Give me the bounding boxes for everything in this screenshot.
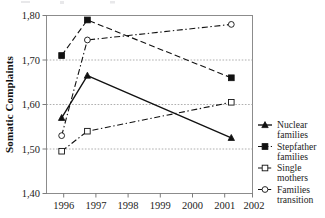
data-point bbox=[59, 133, 65, 139]
data-point bbox=[228, 22, 234, 28]
legend-label-line2: transition bbox=[277, 194, 313, 205]
data-point bbox=[59, 148, 65, 154]
legend-marker bbox=[262, 187, 268, 193]
y-tick-label-170: 1,70 bbox=[22, 55, 40, 66]
x-tick-label-2000: 2000 bbox=[182, 200, 203, 211]
line-chart: 1,40 1,50 1,60 1,70 1,80 Somatic Complai… bbox=[0, 0, 325, 218]
x-tick-label-1998: 1998 bbox=[118, 200, 139, 211]
x-tick-label-1996: 1996 bbox=[53, 200, 74, 211]
somatic-complaints-figure: 1,40 1,50 1,60 1,70 1,80 Somatic Complai… bbox=[0, 0, 325, 218]
legend-marker bbox=[262, 165, 268, 171]
data-point bbox=[84, 37, 90, 43]
legend-marker bbox=[262, 144, 268, 150]
x-tick-label-2002: 2002 bbox=[244, 200, 265, 211]
y-tick-label-180: 1,80 bbox=[22, 10, 40, 21]
y-tick-label-160: 1,60 bbox=[22, 99, 40, 110]
data-point bbox=[59, 53, 65, 59]
x-tick-label-1997: 1997 bbox=[85, 200, 106, 211]
data-point bbox=[228, 99, 234, 105]
legend-label-line2: families bbox=[277, 129, 308, 140]
y-tick-label-150: 1,50 bbox=[22, 144, 40, 155]
x-axis-tick-labels: 1996 1997 1998 1999 2000 2001 2002 bbox=[53, 200, 264, 211]
data-point bbox=[84, 17, 90, 23]
data-point bbox=[85, 128, 91, 134]
y-axis-label: Somatic Complaints bbox=[3, 55, 15, 152]
legend-label-line2: mothers bbox=[277, 172, 308, 183]
legend-label-line2: families bbox=[277, 151, 308, 162]
x-tick-label-2001: 2001 bbox=[214, 200, 235, 211]
y-tick-label-140: 1,40 bbox=[22, 188, 40, 199]
data-point bbox=[228, 75, 234, 81]
x-tick-label-1999: 1999 bbox=[150, 200, 171, 211]
